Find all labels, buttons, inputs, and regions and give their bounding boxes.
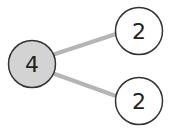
part-bottom-value: 2 (132, 89, 146, 114)
connector-bottom (52, 73, 116, 96)
number-bond-diagram: 4 2 2 (0, 0, 171, 131)
part-circle-bottom: 2 (116, 78, 163, 125)
connector-top (52, 34, 116, 55)
whole-value: 4 (25, 52, 39, 77)
part-circle-top: 2 (116, 8, 163, 55)
whole-circle: 4 (9, 41, 56, 88)
part-top-value: 2 (132, 19, 146, 44)
